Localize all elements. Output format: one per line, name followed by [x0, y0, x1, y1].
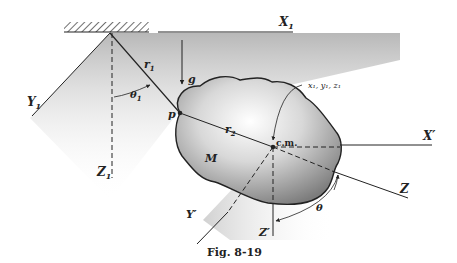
pendulum-diagram: X1 Y1 Z1 r1 θ1 g p r2 M c.m. x₁, y₁, z₁ … [0, 0, 457, 263]
mass-label: M [204, 152, 218, 165]
rigid-body [176, 77, 342, 205]
x1-axis-label: X1 [278, 15, 294, 31]
figure-canvas: X1 Y1 Z1 r1 θ1 g p r2 M c.m. x₁, y₁, z₁ … [0, 0, 457, 263]
x-prime-label: X′ [422, 129, 436, 143]
point-p-label: p [168, 108, 176, 121]
cm-label: c.m. [276, 138, 297, 148]
y-prime-label: Y′ [186, 208, 197, 221]
figure-caption: Fig. 8-19 [207, 246, 262, 259]
y1-axis-label: Y1 [27, 95, 41, 111]
theta-label: θ [316, 202, 323, 213]
z-axis-label: Z [399, 182, 410, 196]
z-prime-label: Z′ [258, 226, 270, 239]
z-axis [332, 171, 408, 198]
gravity-label: g [188, 73, 196, 86]
fixed-support [64, 22, 149, 32]
cm-coords-label: x₁, y₁, z₁ [308, 81, 341, 90]
